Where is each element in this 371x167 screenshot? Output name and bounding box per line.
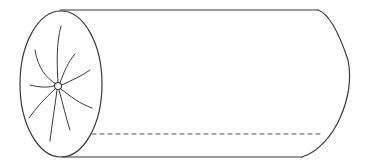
cylinder-drawing <box>0 0 371 167</box>
cylinder-figure <box>0 0 371 167</box>
